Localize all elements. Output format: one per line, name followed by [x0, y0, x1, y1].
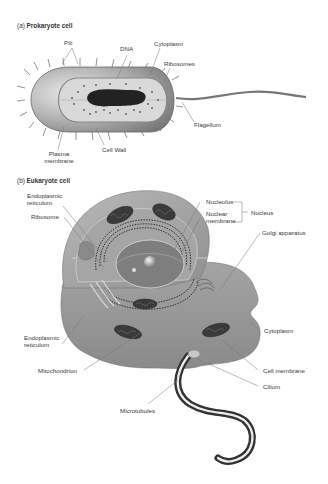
label-cytoplasm-b: Cytoplasm — [264, 327, 293, 334]
label-nucleolus: Nucleolus — [206, 198, 233, 205]
label-cell-membrane: Cell membrane — [263, 367, 305, 374]
figure-b-title: (b) Eukaryote cell — [17, 177, 70, 184]
prokaryote-cell — [17, 48, 306, 150]
flagellum — [176, 92, 306, 100]
label-er-bottom-line1: Endoplasmic — [24, 334, 59, 341]
label-pili: Pili — [64, 39, 72, 46]
label-mitochondrion: Mitochondrion — [38, 367, 77, 374]
label-ribosome: Ribosome — [31, 213, 59, 220]
label-ribosomes: Ribosomes — [164, 60, 195, 67]
figure-a-title: (a) Prokaryote cell — [17, 22, 72, 29]
label-cilium: Cilium — [263, 383, 280, 390]
label-flagellum: Flagellum — [194, 121, 221, 128]
label-er-top: Endoplasmic reticulum — [27, 192, 62, 206]
label-er-top-line1: Endoplasmic — [27, 192, 62, 199]
label-nuclear-membrane-line2: membrane — [206, 217, 236, 224]
label-er-bottom: Endoplasmic reticulum — [24, 334, 59, 348]
dna — [87, 89, 146, 106]
label-golgi-apparatus: Golgi apparatus — [262, 229, 306, 236]
cell-diagram — [0, 0, 328, 484]
figure-b-prefix: (b) — [17, 177, 25, 184]
label-er-bottom-line2: reticulum — [24, 341, 59, 348]
label-nucleus: Nucleus — [251, 209, 273, 216]
label-cell-wall: Cell Wall — [102, 146, 126, 153]
label-dna: DNA — [120, 45, 133, 52]
label-er-top-line2: reticulum — [27, 199, 62, 206]
figure-a-prefix: (a) — [17, 22, 25, 29]
label-nuclear-membrane: Nuclear membrane — [206, 210, 236, 224]
cilium — [178, 356, 253, 461]
label-plasma-membrane-line2: membrane — [42, 157, 76, 164]
eukaryote-cell — [61, 191, 260, 462]
label-plasma-membrane: Plasma membrane — [42, 150, 76, 164]
figure-a-title-text: Prokaryote cell — [27, 22, 73, 29]
label-plasma-membrane-line1: Plasma — [42, 150, 76, 157]
label-cytoplasm-a: Cytoplasm — [154, 40, 183, 47]
label-nuclear-membrane-line1: Nuclear — [206, 210, 236, 217]
figure-b-title-text: Eukaryote cell — [27, 177, 70, 184]
nucleolus — [144, 256, 156, 268]
label-microtubules: Microtubules — [120, 407, 155, 414]
